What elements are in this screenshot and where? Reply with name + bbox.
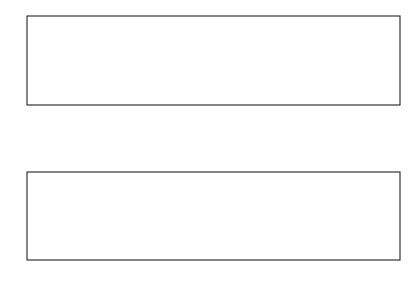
technology-diffusion-chart bbox=[0, 0, 409, 290]
top-panel bbox=[27, 16, 400, 105]
bottom-panel bbox=[27, 172, 400, 260]
bottom-plot-frame bbox=[27, 172, 400, 260]
top-plot-frame bbox=[27, 16, 400, 105]
